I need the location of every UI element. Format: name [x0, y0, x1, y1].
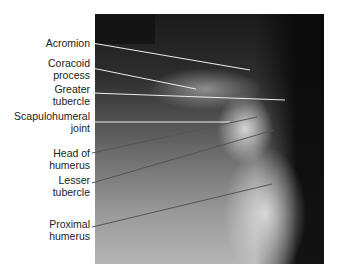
label-line: joint — [2, 122, 90, 134]
label-line: Scapulohumeral — [2, 110, 90, 122]
label-line: Proximal — [2, 218, 90, 230]
label-line: humerus — [2, 230, 90, 242]
label-scapulohumeral-joint: Scapulohumeral joint — [2, 110, 90, 134]
shoulder-xray-image — [95, 14, 324, 264]
side-marker: L — [323, 24, 336, 48]
xray-dark-region — [95, 14, 155, 44]
label-line: Lesser — [2, 174, 90, 186]
label-head-of-humerus: Head of humerus — [2, 147, 90, 171]
label-line: tubercle — [2, 186, 90, 198]
label-line: Acromion — [2, 37, 90, 49]
label-acromion: Acromion — [2, 37, 90, 49]
label-proximal-humerus: Proximal humerus — [2, 218, 90, 242]
label-greater-tubercle: Greater tubercle — [2, 83, 90, 107]
label-lesser-tubercle: Lesser tubercle — [2, 174, 90, 198]
label-line: humerus — [2, 159, 90, 171]
label-line: Head of — [2, 147, 90, 159]
label-line: process — [2, 69, 90, 81]
label-line: Greater — [2, 83, 90, 95]
label-line: tubercle — [2, 95, 90, 107]
label-line: Coracoid — [2, 57, 90, 69]
label-coracoid-process: Coracoid process — [2, 57, 90, 81]
